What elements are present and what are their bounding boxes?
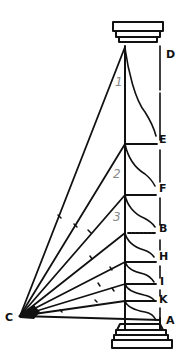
label-K: K bbox=[159, 293, 168, 306]
label-A: A bbox=[166, 314, 175, 327]
capital bbox=[113, 22, 163, 42]
label-I: I bbox=[160, 275, 164, 288]
label-H: H bbox=[159, 250, 168, 263]
label-F: F bbox=[159, 182, 167, 195]
column-base bbox=[112, 318, 172, 348]
label-D: D bbox=[166, 48, 175, 61]
perspective-rays bbox=[20, 47, 160, 320]
numeral-2: 2 bbox=[113, 167, 121, 181]
numeral-1: 1 bbox=[115, 75, 123, 89]
entasis-curves bbox=[125, 48, 156, 320]
label-C: C bbox=[5, 311, 13, 324]
point-labels: D E F B H I K A C bbox=[5, 48, 175, 327]
column-diagram: D E F B H I K A C 1 2 3 bbox=[0, 0, 185, 362]
numeral-3: 3 bbox=[113, 210, 121, 224]
label-E: E bbox=[159, 133, 167, 146]
horizontal-ticks bbox=[125, 144, 157, 301]
label-B: B bbox=[159, 222, 167, 235]
